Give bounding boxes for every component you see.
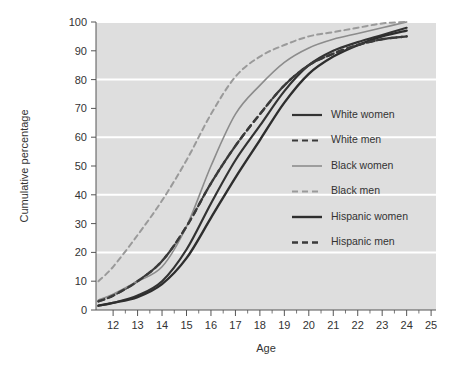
y-tick-label: 40 <box>75 189 87 201</box>
y-axis-title: Cumulative percentage <box>18 109 30 222</box>
y-tick-label: 100 <box>69 16 87 28</box>
x-tick-label: 13 <box>131 319 143 331</box>
y-tick-label: 10 <box>75 275 87 287</box>
x-tick-label: 18 <box>254 319 266 331</box>
x-tick-label: 25 <box>425 319 437 331</box>
x-tick-label: 23 <box>376 319 388 331</box>
y-tick-label: 20 <box>75 246 87 258</box>
x-tick-label: 16 <box>205 319 217 331</box>
x-tick-label: 19 <box>278 319 290 331</box>
x-tick-label: 24 <box>401 319 413 331</box>
y-tick-label: 0 <box>81 304 87 316</box>
chart-container: 0102030405060708090100 12131415161718192… <box>0 0 456 390</box>
x-tick-label: 14 <box>156 319 168 331</box>
y-tick-label: 30 <box>75 218 87 230</box>
legend-label: Black women <box>331 159 394 171</box>
legend-label: Hispanic women <box>331 210 408 222</box>
y-tick-label: 80 <box>75 74 87 86</box>
y-tick-label: 70 <box>75 102 87 114</box>
x-tick-label: 15 <box>180 319 192 331</box>
cumulative-percentage-line-chart: 0102030405060708090100 12131415161718192… <box>0 0 456 390</box>
x-tick-label: 21 <box>327 319 339 331</box>
legend-label: White men <box>331 133 381 145</box>
legend-label: Hispanic men <box>331 235 395 247</box>
legend-label: White women <box>331 108 395 120</box>
y-tick-label: 90 <box>75 45 87 57</box>
x-axis-title: Age <box>256 342 276 354</box>
x-tick-label: 22 <box>352 319 364 331</box>
x-tick-label: 17 <box>229 319 241 331</box>
x-tick-label: 12 <box>107 319 119 331</box>
legend-label: Black men <box>331 184 380 196</box>
y-tick-label: 60 <box>75 131 87 143</box>
y-tick-label: 50 <box>75 160 87 172</box>
x-tick-label: 20 <box>303 319 315 331</box>
